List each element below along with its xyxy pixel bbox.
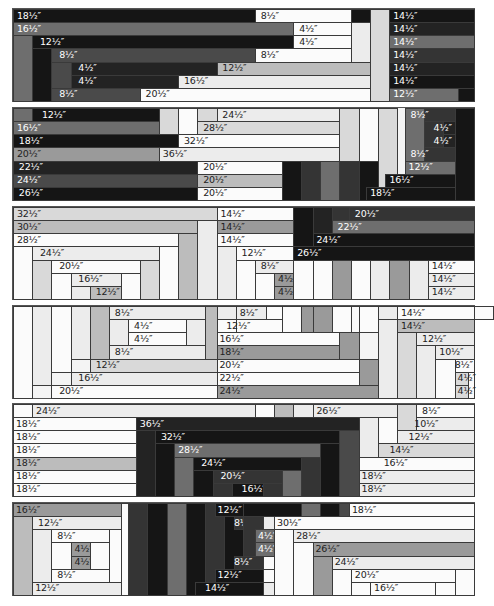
strip [255,404,275,418]
strip-length-label: 20½″ [220,470,244,482]
strip-length-label: 22½″ [338,221,362,233]
strip [332,569,352,596]
strip [301,457,321,497]
strip [455,569,475,596]
strip-length-label: 26½″ [315,543,339,555]
strip-length-label: 12½″ [38,517,62,529]
strip [320,503,340,517]
strip [339,332,359,359]
strip-length-label: 8½″ [234,556,252,568]
strip-length-label: 28½″ [203,122,227,134]
strip-length-label: 4½″ [134,333,152,345]
strip-labeled [359,457,475,471]
strip-length-label: 16½″ [16,504,40,516]
strip-length-label: 20½″ [203,187,227,199]
strip-length-label: 24½″ [201,457,225,469]
strip-length-label: 12½″ [218,569,242,581]
strip [301,503,321,517]
strip [351,260,371,300]
strip-length-label: 8½″ [240,307,258,319]
strip-length-label: 20½″ [219,359,243,371]
strip-length-label: 24½″ [36,405,60,417]
strip-length-label: 20½″ [59,260,83,272]
strip-length-label: 18½″ [370,187,394,199]
strip-length-label: 12½″ [393,88,417,100]
strip-length-label: 18½″ [16,431,40,443]
strip [255,273,275,300]
strip [282,470,302,497]
strip-length-label: 26½″ [19,187,43,199]
strip-length-label: 12½″ [96,286,120,298]
strip [274,404,294,418]
strip-length-label: 14½″ [432,260,456,272]
panel-3: 32½″30½″28½″24½″20½″16½″12½″14½″14½″14½″… [13,207,474,299]
strip-length-label: 28½″ [17,234,41,246]
panel-2: 12½″16½″18½″20½″22½″24½″26½″24½″28½″32½″… [13,108,474,200]
strip [370,260,390,300]
strip-length-label: 14½″ [432,286,456,298]
strip [293,260,313,300]
strip-length-label: 8½″ [59,49,77,61]
strip-labeled [140,88,371,102]
strip [51,273,71,300]
strip-length-label: 26½″ [297,247,321,259]
strip-length-label: 20½″ [355,569,379,581]
strip [339,430,359,497]
strip [174,457,194,497]
strip-length-label: 22½″ [19,161,43,173]
strip-length-label: 16½″ [78,273,102,285]
strip [32,306,52,386]
panel-1: 18½″16½″12½″8½″4½″4½″8½″8½″4½″4½″8½″12½″… [13,9,474,101]
strip [435,582,455,596]
strip [13,35,33,102]
strip [51,542,71,569]
strip [313,306,333,333]
strip [159,108,179,135]
strip-length-label: 16½″ [17,122,41,134]
strip [193,470,213,497]
strip-length-label: 18½″ [219,346,243,358]
strip-length-label: 8½″ [115,346,133,358]
strip-length-label: 22½″ [219,372,243,384]
strip [51,62,71,89]
strip-labeled [13,207,218,221]
strip-length-label: 4½″ [78,75,96,87]
strip [178,233,198,300]
strip-length-label: 30½″ [17,221,41,233]
strip-length-label: 20½″ [355,208,379,220]
strip-length-label: 18½″ [362,483,386,495]
strip-length-label: 12½″ [242,247,266,259]
panel-4: 8½″4½″4½″8½″12½″16½″20½″8½″12½″16½″18½″2… [13,306,474,398]
strip [13,516,33,596]
strip [197,108,217,122]
strip [32,260,52,300]
strip-length-label: 8½″ [455,359,473,371]
strip-length-label: 8½″ [411,109,429,121]
strip [217,306,237,320]
strip [71,306,91,360]
strip-length-label: 24½″ [316,234,340,246]
strip [51,306,71,373]
strip [236,260,256,300]
strip-length-label: 18½″ [16,470,40,482]
strip [167,503,187,596]
strip-labeled [136,417,360,431]
strip [32,48,52,102]
strip-length-label: 12½″ [222,62,246,74]
strip [140,260,160,300]
strip-length-label: 24½″ [40,247,64,259]
strip-length-label: 8½″ [57,530,75,542]
strip [147,503,167,596]
strip [13,246,33,300]
strip-length-label: 24½″ [222,109,246,121]
strip [359,359,379,386]
strip [351,582,371,596]
strip [109,319,129,346]
strip-labeled [32,404,256,418]
strip [274,529,294,596]
strip-length-label: 24½″ [17,174,41,186]
strip-length-label: 32½″ [161,431,185,443]
strip-length-label: 16½″ [219,333,243,345]
panel-6: 16½″12½″8½″4½″4½″8½″12½″12½″18½″8½″4½″4½… [13,503,474,595]
panel-5: 24½″26½″8½″18½″18½″18½″18½″18½″18½″36½″3… [13,404,474,496]
